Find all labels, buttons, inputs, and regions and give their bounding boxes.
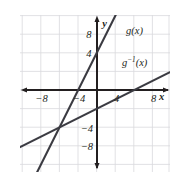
coordinate-plane-svg: −8 −4 4 8 8 4 −4 −8 x y g(x) g−1(x) — [0, 0, 186, 187]
curve-label-g-inverse: g−1(x) — [122, 56, 148, 69]
graph-figure: −8 −4 4 8 8 4 −4 −8 x y g(x) g−1(x) — [0, 0, 186, 187]
x-axis-name: x — [158, 91, 164, 102]
x-tick-label-neg4: −4 — [73, 93, 86, 104]
y-axis-name: y — [100, 18, 107, 29]
x-tick-label-neg8: −8 — [35, 93, 48, 104]
y-tick-label-4: 4 — [86, 48, 92, 59]
y-tick-label-neg4: −4 — [81, 123, 94, 134]
x-tick-label-8: 8 — [151, 93, 157, 104]
curve-label-g-inverse-exponent: −1 — [127, 56, 135, 64]
x-tick-label-4: 4 — [114, 93, 120, 104]
curve-label-g-inverse-arg: (x) — [136, 57, 148, 69]
y-tick-label-neg8: −8 — [81, 141, 94, 152]
y-tick-label-8: 8 — [86, 29, 92, 40]
curve-label-g: g(x) — [126, 25, 143, 37]
